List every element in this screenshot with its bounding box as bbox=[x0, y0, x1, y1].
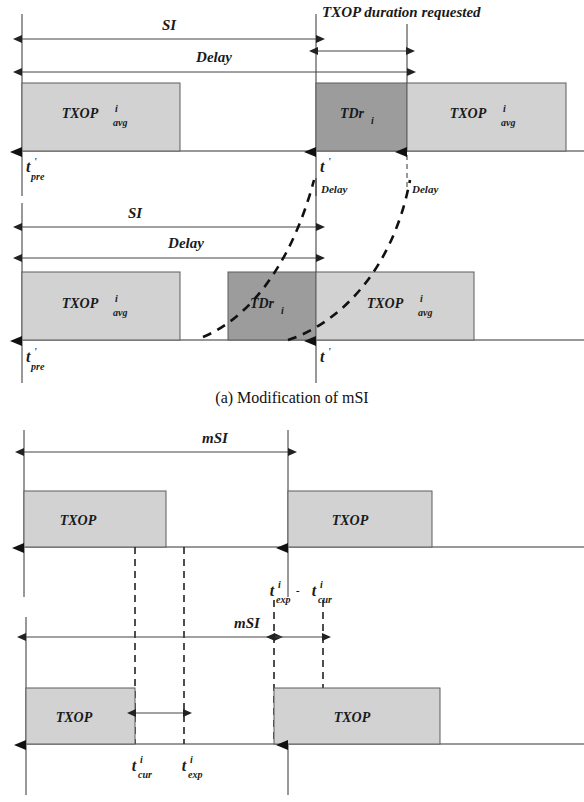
caption-panel-a: (a) Modification of mSI bbox=[215, 389, 368, 407]
box-label-txop-avg-2b: TXOP bbox=[367, 296, 404, 311]
label-t-exp-upper-sup: i bbox=[278, 579, 281, 590]
panel-a-timeline-1: SI Delay TXOP duration requested TXOP i … bbox=[22, 4, 584, 196]
label-txop-duration-requested: TXOP duration requested bbox=[322, 4, 481, 20]
label-delay-2: Delay bbox=[167, 235, 204, 251]
label-t-pre-2-sub: pre bbox=[30, 361, 45, 372]
label-t-exp-lower-sup: i bbox=[190, 754, 193, 765]
box-label-txop-avg-1b: TXOP bbox=[450, 106, 487, 121]
label-t-pre-1-sup: ' bbox=[34, 156, 37, 167]
box-txop-avg-1b bbox=[407, 83, 566, 151]
box-sub-tdr-1: i bbox=[371, 115, 374, 126]
figure-container: SI Delay TXOP duration requested TXOP i … bbox=[0, 0, 584, 802]
box-txop-avg-2a bbox=[22, 272, 180, 340]
timing-diagram-svg: SI Delay TXOP duration requested TXOP i … bbox=[0, 0, 584, 802]
box-sub-txop-avg-1b: avg bbox=[501, 117, 515, 128]
label-t-exp-lower: t bbox=[182, 757, 187, 774]
label-t-prime-1-sup: ' bbox=[328, 156, 331, 167]
box-sup-txop-avg-1b: i bbox=[503, 103, 506, 114]
label-t-cur-upper: t bbox=[312, 582, 317, 599]
box-sup-txop-avg-1a: i bbox=[115, 103, 118, 114]
label-delay-mark-right: Delay bbox=[411, 183, 438, 195]
label-msi-b1: mSI bbox=[202, 430, 229, 446]
panel-b-timeline-1: mSI TXOP TXOP bbox=[24, 430, 584, 597]
box-sup-txop-avg-2b: i bbox=[420, 293, 423, 304]
label-t-prime-2-sup: ' bbox=[328, 346, 331, 357]
box-label-txop-b1b: TXOP bbox=[332, 513, 369, 528]
label-t-pre-2-sup: ' bbox=[34, 346, 37, 357]
box-sub-txop-avg-2a: avg bbox=[113, 307, 127, 318]
label-delay-mark-left: Delay bbox=[320, 183, 347, 195]
label-si-1: SI bbox=[162, 17, 177, 33]
panel-b-timeline-2: mSI t i exp - t i cur TXOP TXOP t i cur … bbox=[26, 547, 584, 795]
label-t-pre-1-sub: pre bbox=[30, 171, 45, 182]
box-label-txop-b1a: TXOP bbox=[60, 513, 97, 528]
box-txop-avg-1a bbox=[22, 83, 180, 151]
box-label-txop-b2b: TXOP bbox=[334, 710, 371, 725]
label-t-prime-2: t bbox=[320, 348, 325, 365]
panel-a-timeline-2: SI Delay TXOP i avg TDr i TXOP i avg t '… bbox=[22, 178, 584, 383]
label-t-cur-lower-sup: i bbox=[140, 754, 143, 765]
label-t-exp-upper-sub: exp bbox=[276, 594, 290, 605]
label-msi-b2: mSI bbox=[234, 615, 261, 631]
label-t-prime-1: t bbox=[320, 158, 325, 175]
box-label-txop-avg-2a: TXOP bbox=[62, 296, 99, 311]
box-label-txop-b2a: TXOP bbox=[56, 710, 93, 725]
label-si-2: SI bbox=[128, 205, 143, 221]
box-sup-txop-avg-2a: i bbox=[115, 293, 118, 304]
box-label-tdr-1: TDr bbox=[340, 106, 365, 121]
box-sub-txop-avg-1a: avg bbox=[113, 117, 127, 128]
box-label-txop-avg-1a: TXOP bbox=[62, 106, 99, 121]
box-sub-txop-avg-2b: avg bbox=[418, 307, 432, 318]
label-t-cur-upper-sub: cur bbox=[318, 594, 332, 605]
label-delay-1: Delay bbox=[195, 49, 232, 65]
label-t-exp-upper: t bbox=[270, 582, 275, 599]
label-t-exp-upper-trail: - bbox=[296, 584, 300, 596]
box-sub-tdr-2: i bbox=[281, 305, 284, 316]
label-t-cur-lower-sub: cur bbox=[138, 769, 152, 780]
label-t-cur-upper-sup: i bbox=[320, 579, 323, 590]
label-t-exp-lower-sub: exp bbox=[188, 769, 202, 780]
label-t-cur-lower: t bbox=[132, 757, 137, 774]
